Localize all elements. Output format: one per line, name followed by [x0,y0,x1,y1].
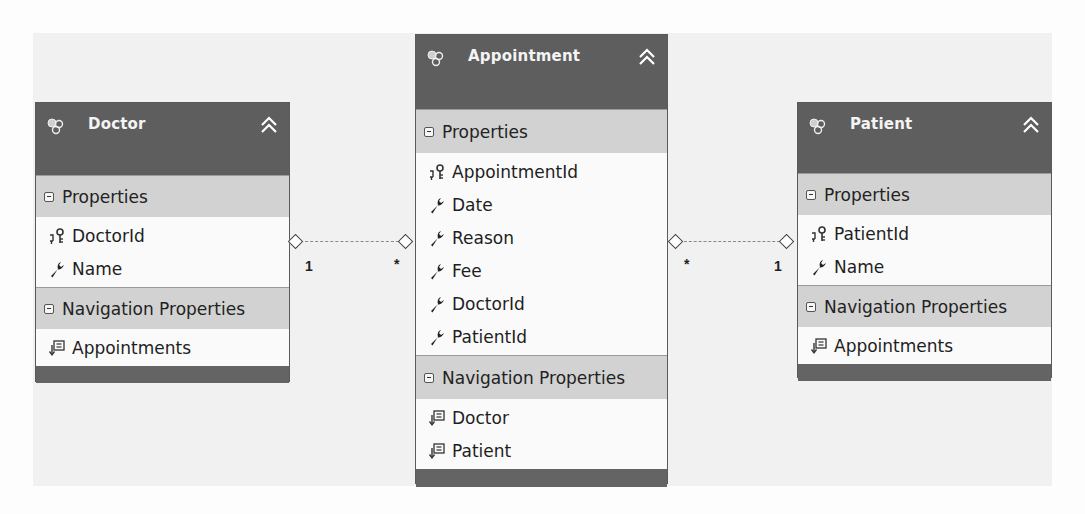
property-label: Appointments [834,336,953,356]
property-label: Patient [452,441,511,461]
section-title: Navigation Properties [442,368,625,388]
entity-patient[interactable]: Patient Properties PatientId Name Naviga… [797,102,1052,378]
entity-header[interactable]: Appointment [416,35,667,109]
navigation-property-icon [48,339,66,357]
collapse-toggle-icon[interactable] [424,127,434,137]
section-navigation-properties[interactable]: Navigation Properties [36,287,289,329]
property-item[interactable]: PatientId [416,320,667,353]
navigation-property-icon [428,409,446,427]
collapse-toggle-icon[interactable] [806,302,816,312]
property-label: Appointments [72,338,191,358]
collapse-toggle-icon[interactable] [44,304,54,314]
key-icon [428,163,446,181]
wrench-icon [428,196,446,214]
properties-list: AppointmentId Date Reason Fee DoctorId P… [416,153,667,355]
property-label: Reason [452,228,514,248]
collapse-toggle-icon[interactable] [806,190,816,200]
navigation-property-icon [428,442,446,460]
navigation-property-item[interactable]: Patient [416,434,667,467]
property-label: Doctor [452,408,509,428]
wrench-icon [810,258,828,276]
section-properties[interactable]: Properties [798,173,1051,215]
property-label: Date [452,195,493,215]
section-title: Properties [824,185,910,205]
property-label: DoctorId [72,226,145,246]
property-item[interactable]: Date [416,188,667,221]
property-label: Name [834,257,884,277]
property-item[interactable]: DoctorId [36,219,289,252]
navigation-property-item[interactable]: Appointments [798,329,1051,362]
entity-footer [798,364,1051,381]
multiplicity-label: * [684,256,689,272]
property-item[interactable]: PatientId [798,217,1051,250]
wrench-icon [428,295,446,313]
entity-icon [808,117,828,135]
multiplicity-label: 1 [774,258,782,274]
double-chevron-up-icon[interactable] [637,47,657,67]
property-item[interactable]: Name [36,252,289,285]
property-label: AppointmentId [452,162,578,182]
entity-title: Doctor [88,115,146,133]
property-item[interactable]: DoctorId [416,287,667,320]
property-label: PatientId [452,327,527,347]
section-title: Navigation Properties [824,297,1007,317]
collapse-toggle-icon[interactable] [424,373,434,383]
entity-appointment[interactable]: Appointment Properties AppointmentId Dat… [415,34,668,484]
property-item[interactable]: Fee [416,254,667,287]
multiplicity-label: * [394,256,399,272]
section-navigation-properties[interactable]: Navigation Properties [798,285,1051,327]
navigation-property-item[interactable]: Appointments [36,331,289,364]
navigation-property-item[interactable]: Doctor [416,401,667,434]
section-title: Navigation Properties [62,299,245,319]
entity-title: Appointment [468,47,580,65]
properties-list: DoctorId Name [36,217,289,287]
entity-icon [426,49,446,67]
navigation-properties-list: Appointments [36,329,289,366]
property-label: DoctorId [452,294,525,314]
key-icon [48,227,66,245]
properties-list: PatientId Name [798,215,1051,285]
property-item[interactable]: AppointmentId [416,155,667,188]
property-label: Name [72,259,122,279]
wrench-icon [428,262,446,280]
entity-footer [36,366,289,383]
wrench-icon [428,229,446,247]
section-properties[interactable]: Properties [36,175,289,217]
collapse-toggle-icon[interactable] [44,192,54,202]
association-line[interactable] [679,241,785,242]
entity-icon [46,117,66,135]
navigation-properties-list: Appointments [798,327,1051,364]
double-chevron-up-icon[interactable] [259,115,279,135]
multiplicity-label: 1 [305,258,313,274]
navigation-properties-list: Doctor Patient [416,399,667,469]
property-label: PatientId [834,224,909,244]
entity-header[interactable]: Patient [798,103,1051,173]
entity-header[interactable]: Doctor [36,103,289,175]
double-chevron-up-icon[interactable] [1021,115,1041,135]
section-properties[interactable]: Properties [416,109,667,153]
association-line[interactable] [300,241,404,242]
property-label: Fee [452,261,482,281]
navigation-property-icon [810,337,828,355]
section-title: Properties [442,122,528,142]
entity-doctor[interactable]: Doctor Properties DoctorId Name Navigati… [35,102,290,382]
wrench-icon [428,328,446,346]
section-navigation-properties[interactable]: Navigation Properties [416,355,667,399]
key-icon [810,225,828,243]
wrench-icon [48,260,66,278]
property-item[interactable]: Reason [416,221,667,254]
entity-footer [416,469,667,487]
section-title: Properties [62,187,148,207]
property-item[interactable]: Name [798,250,1051,283]
entity-title: Patient [850,115,912,133]
